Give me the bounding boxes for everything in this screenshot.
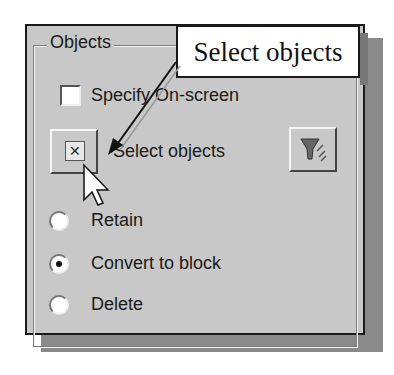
- annotation-overlay: [0, 0, 394, 375]
- mouse-cursor-icon: [84, 165, 108, 205]
- leader-arrow-icon: [108, 62, 180, 155]
